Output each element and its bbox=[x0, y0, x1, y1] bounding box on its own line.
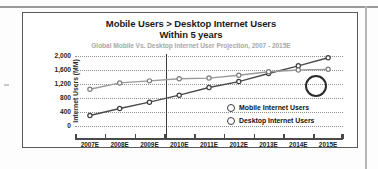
y-axis-tick-label: 800 bbox=[29, 94, 71, 101]
chart-title: Mobile Users > Desktop Internet Users Wi… bbox=[23, 18, 359, 40]
data-point bbox=[118, 106, 122, 110]
page-tick-left bbox=[4, 84, 9, 86]
data-point bbox=[207, 85, 211, 89]
y-axis-tick-label: 400 bbox=[29, 108, 71, 115]
y-axis-tick-label: 0 bbox=[29, 122, 71, 129]
y-axis-tick-label: 1,200 bbox=[29, 80, 71, 87]
data-point bbox=[237, 73, 241, 77]
x-axis-tickmark bbox=[343, 134, 344, 139]
x-axis-tickmark bbox=[105, 134, 106, 139]
x-axis-tickmark bbox=[224, 134, 225, 139]
chart-title-line1: Mobile Users > Desktop Internet Users bbox=[106, 18, 276, 29]
y-axis-tick-label: 2,000 bbox=[29, 52, 71, 59]
legend-label-desktop: Desktop Internet Users bbox=[239, 117, 314, 124]
crossover-highlight-circle bbox=[305, 75, 327, 97]
x-axis bbox=[75, 138, 343, 140]
data-point bbox=[88, 87, 92, 91]
x-axis-tickmark bbox=[135, 134, 136, 139]
x-axis-labels: 2007E2008E2009E2010E2011E2012E2013E2014E… bbox=[75, 141, 343, 153]
page-canvas: Mobile Users > Desktop Internet Users Wi… bbox=[0, 0, 378, 169]
data-point bbox=[237, 79, 241, 83]
x-axis-tickmark bbox=[164, 134, 165, 139]
chart-title-line2: Within 5 years bbox=[23, 29, 359, 40]
data-point bbox=[296, 68, 300, 72]
data-point bbox=[326, 56, 330, 60]
data-point bbox=[266, 70, 270, 74]
chart-legend: Mobile Internet Users Desktop Internet U… bbox=[227, 101, 355, 127]
x-axis-tickmark bbox=[313, 134, 314, 139]
legend-marker-mobile-icon bbox=[227, 104, 235, 112]
data-point bbox=[147, 79, 151, 83]
x-axis-tickmark bbox=[254, 134, 255, 139]
x-axis-tickmark bbox=[283, 134, 284, 139]
legend-marker-desktop-icon bbox=[227, 117, 235, 125]
data-point bbox=[177, 93, 181, 97]
y-axis-tick-label: 1,600 bbox=[29, 66, 71, 73]
data-point bbox=[326, 67, 330, 71]
x-axis-tickmark bbox=[75, 134, 76, 139]
page-rule-right bbox=[365, 6, 367, 169]
legend-item-desktop[interactable]: Desktop Internet Users bbox=[227, 114, 355, 127]
legend-label-mobile: Mobile Internet Users bbox=[239, 104, 309, 111]
data-point bbox=[88, 113, 92, 117]
x-axis-tick-label: 2015E bbox=[311, 141, 345, 148]
x-axis-tickmark bbox=[194, 134, 195, 139]
data-point bbox=[296, 64, 300, 68]
data-point bbox=[177, 77, 181, 81]
data-point bbox=[147, 100, 151, 104]
page-rule-top bbox=[0, 6, 378, 8]
data-point bbox=[207, 76, 211, 80]
legend-item-mobile[interactable]: Mobile Internet Users bbox=[227, 101, 355, 114]
data-point bbox=[118, 81, 122, 85]
chart-frame: Mobile Users > Desktop Internet Users Wi… bbox=[22, 12, 358, 148]
